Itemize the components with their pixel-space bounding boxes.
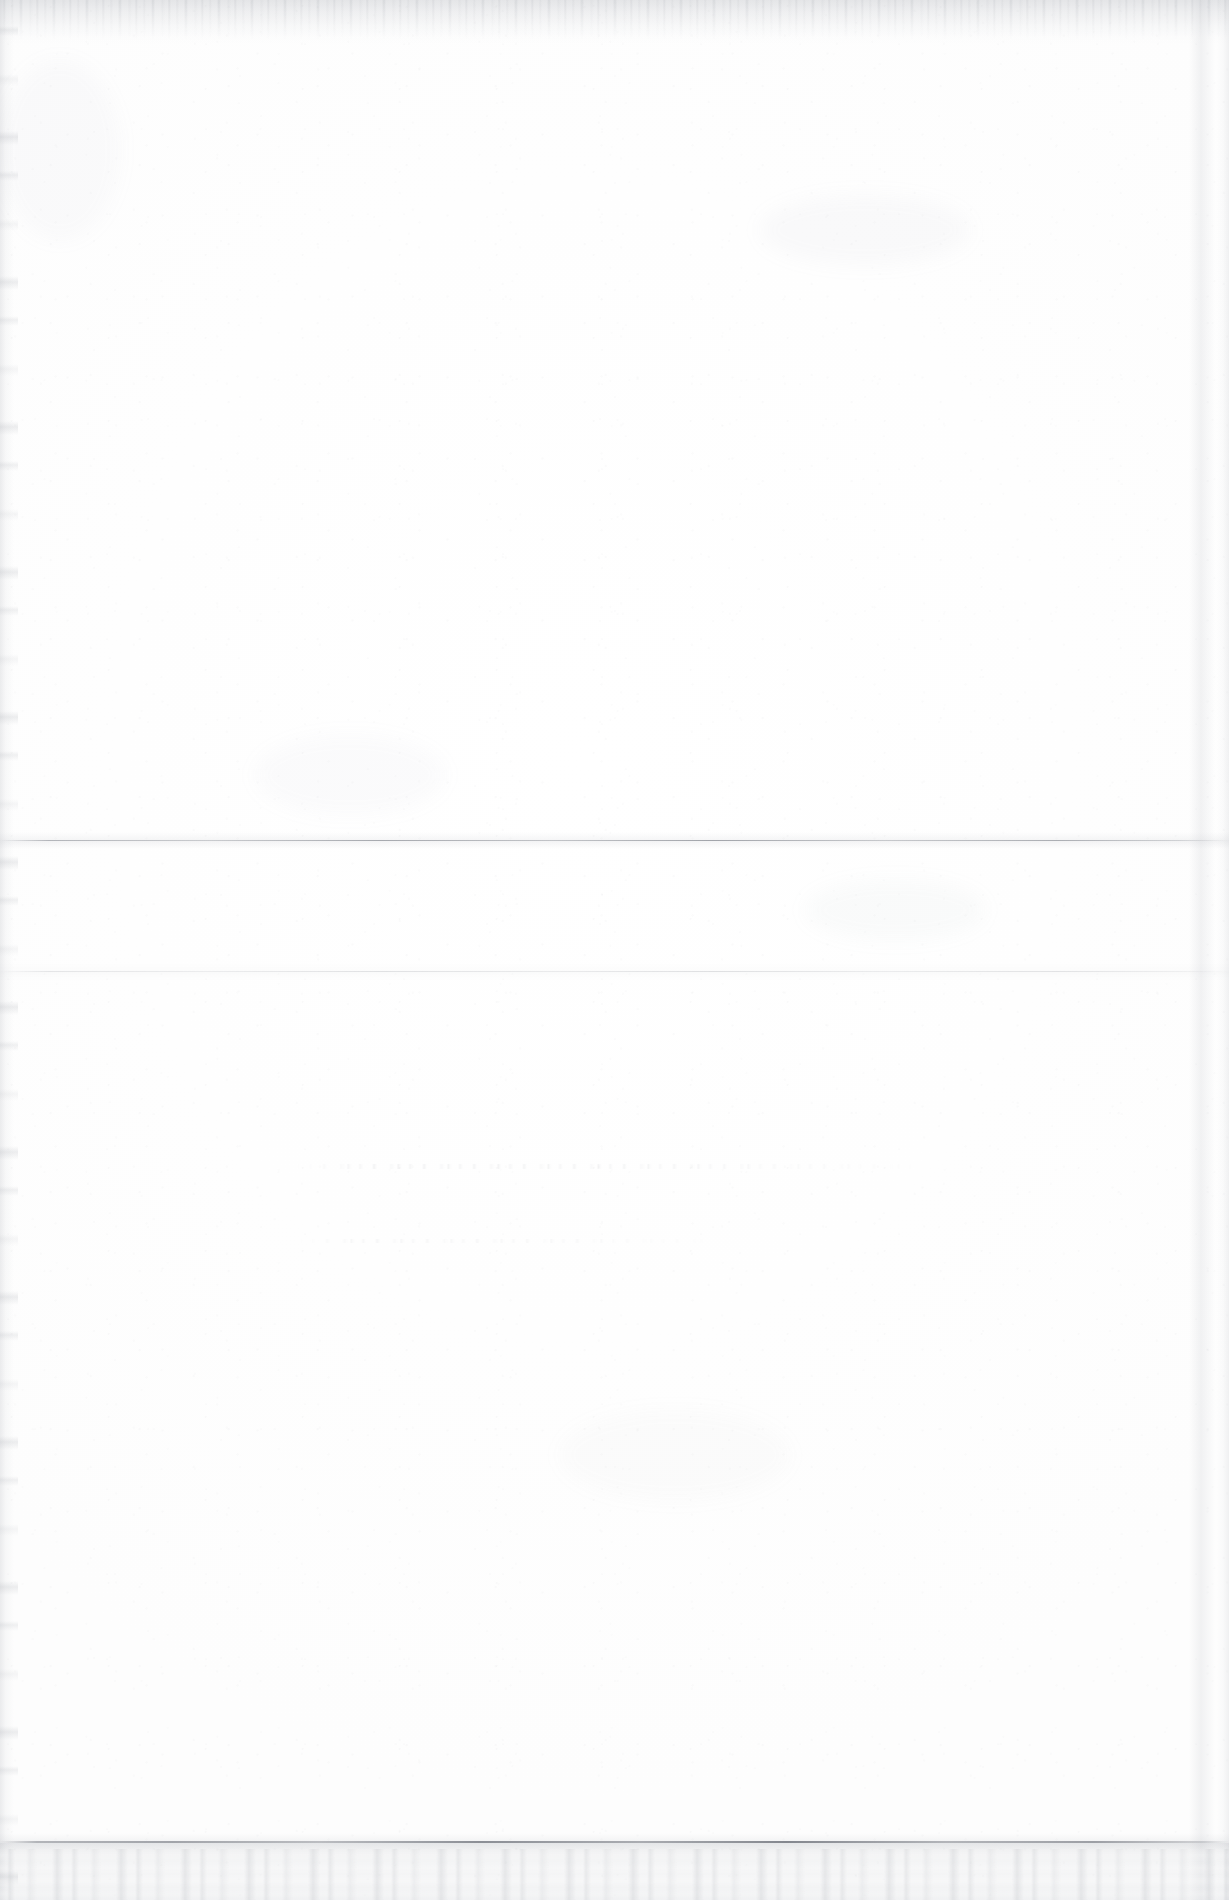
scanned-page-viewport: [0, 0, 1229, 1900]
paper-sheet: [0, 0, 1229, 1900]
